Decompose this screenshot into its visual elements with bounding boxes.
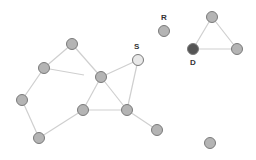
edge-b-c bbox=[44, 68, 84, 75]
node-layer bbox=[17, 12, 243, 149]
edge-layer bbox=[22, 17, 237, 138]
node-t1 bbox=[207, 12, 218, 23]
graph-canvas bbox=[0, 0, 256, 160]
node-j bbox=[205, 138, 216, 149]
node-h bbox=[34, 133, 45, 144]
edge-a-c bbox=[72, 44, 101, 77]
edge-c-s bbox=[101, 60, 138, 77]
edge-h-f bbox=[39, 110, 83, 138]
node-label-d: D bbox=[190, 59, 196, 67]
node-label-r: R bbox=[161, 14, 167, 22]
node-a bbox=[67, 39, 78, 50]
network-graph: S R D bbox=[0, 0, 256, 160]
node-d bbox=[188, 44, 199, 55]
node-e bbox=[17, 95, 28, 106]
node-i bbox=[152, 125, 163, 136]
edge-t1-t2 bbox=[212, 17, 237, 49]
node-c bbox=[96, 72, 107, 83]
node-s bbox=[133, 55, 144, 66]
node-label-s: S bbox=[134, 43, 139, 51]
node-g bbox=[122, 105, 133, 116]
edge-e-h bbox=[22, 100, 39, 138]
edge-c-g bbox=[101, 77, 127, 110]
node-b bbox=[39, 63, 50, 74]
node-t2 bbox=[232, 44, 243, 55]
node-f bbox=[78, 105, 89, 116]
node-r bbox=[159, 26, 170, 37]
edge-s-g bbox=[127, 60, 138, 110]
